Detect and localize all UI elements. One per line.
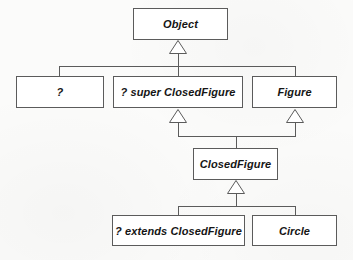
class-node-figure[interactable]: Figure [252,76,337,108]
generalization-arrowhead-to-closedfigure [227,180,245,194]
class-node-super-closedfigure-label: ? super ClosedFigure [120,86,235,98]
class-diagram-canvas: Object ? ? super ClosedFigure Figure Clo… [0,0,353,260]
class-node-closedfigure[interactable]: ClosedFigure [193,148,278,180]
class-node-circle-label: Circle [279,225,310,237]
edge-drop-to-super-closedfigure [178,66,179,76]
edge-drop-to-circle [295,206,296,215]
class-node-object[interactable]: Object [133,8,228,40]
edge-closedfigure-child-bus [178,206,296,207]
class-node-extends-closedfigure-label: ? extends ClosedFigure [115,225,242,237]
class-node-wildcard-label: ? [57,86,64,98]
edge-stem-from-figure [295,122,296,136]
generalization-arrowhead-to-super-closedfigure [169,109,187,123]
class-node-super-closedfigure[interactable]: ? super ClosedFigure [113,76,243,108]
class-node-closedfigure-label: ClosedFigure [200,158,272,170]
generalization-arrowhead-to-object [169,40,187,54]
edge-closedfigure-parent-bus [178,136,296,137]
edge-drop-to-figure [295,66,296,76]
class-node-figure-label: Figure [277,86,311,98]
edge-drop-to-extends-closedfigure [178,206,179,215]
edge-stem-from-super-closedfigure [178,122,179,136]
class-node-extends-closedfigure[interactable]: ? extends ClosedFigure [112,215,245,246]
edge-object-stem [178,53,179,66]
generalization-arrowhead-to-figure [286,109,304,123]
edge-closedfigure-child-stem [236,193,237,206]
class-node-object-label: Object [163,18,198,30]
edge-drop-to-closedfigure [236,136,237,148]
edge-drop-to-wildcard [59,66,60,76]
class-node-circle[interactable]: Circle [252,215,337,246]
class-node-wildcard[interactable]: ? [16,76,104,108]
